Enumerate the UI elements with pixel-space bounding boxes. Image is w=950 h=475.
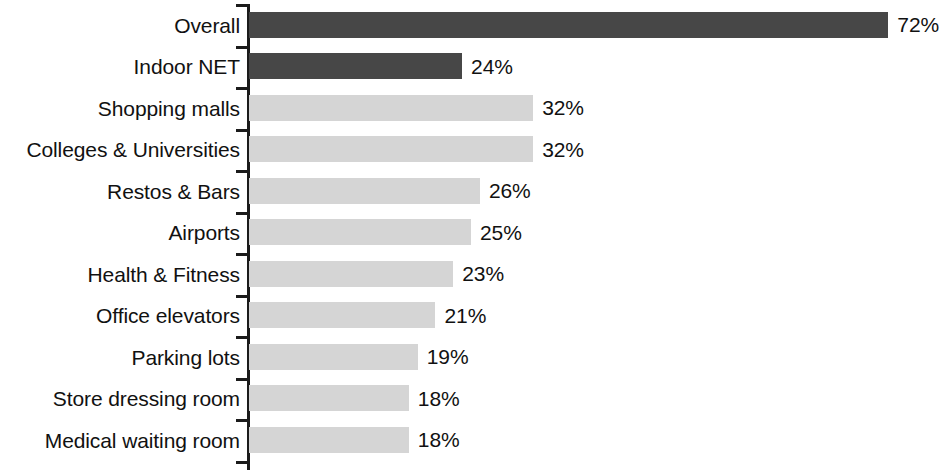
bar [249, 12, 888, 38]
plot-area: Overall72%Indoor NET24%Shopping malls32%… [0, 0, 950, 475]
bar-track: 24% [249, 53, 513, 79]
bar-track: 18% [249, 427, 460, 453]
bar-track: 32% [249, 95, 584, 121]
bar [249, 219, 471, 245]
bar-row: Health & Fitness23% [0, 253, 950, 295]
bar-row: Overall72% [0, 4, 950, 46]
bar [249, 53, 462, 79]
bar-track: 26% [249, 178, 531, 204]
bar [249, 344, 418, 370]
bar-row: Office elevators21% [0, 295, 950, 337]
bar-value-label: 19% [427, 346, 469, 367]
bar-track: 21% [249, 302, 486, 328]
category-label: Office elevators [96, 305, 240, 326]
bar [249, 95, 533, 121]
bar-row: Restos & Bars26% [0, 170, 950, 212]
bar-value-label: 21% [444, 305, 486, 326]
category-label: Colleges & Universities [26, 139, 240, 160]
bar-track: 72% [249, 12, 939, 38]
category-label: Health & Fitness [88, 263, 240, 284]
horizontal-bar-chart: Overall72%Indoor NET24%Shopping malls32%… [0, 0, 950, 475]
category-label: Airports [168, 222, 240, 243]
bar-track: 19% [249, 344, 468, 370]
axis-tick [236, 461, 248, 464]
bar [249, 427, 409, 453]
bar-track: 25% [249, 219, 522, 245]
bar-value-label: 25% [480, 222, 522, 243]
bar [249, 385, 409, 411]
category-label: Medical waiting room [45, 429, 240, 450]
bar-value-label: 32% [542, 139, 584, 160]
bar [249, 302, 435, 328]
bar-value-label: 24% [471, 56, 513, 77]
bar-track: 18% [249, 385, 460, 411]
bar-row: Shopping malls32% [0, 87, 950, 129]
bar [249, 136, 533, 162]
bar-value-label: 18% [418, 388, 460, 409]
bar [249, 261, 453, 287]
bar [249, 178, 480, 204]
category-label: Indoor NET [134, 56, 240, 77]
bar-value-label: 72% [897, 14, 939, 35]
category-label: Restos & Bars [107, 180, 240, 201]
category-label: Parking lots [131, 346, 240, 367]
bar-row: Indoor NET24% [0, 46, 950, 88]
bar-track: 32% [249, 136, 584, 162]
bar-row: Colleges & Universities32% [0, 129, 950, 171]
category-label: Shopping malls [98, 97, 240, 118]
bar-row: Medical waiting room18% [0, 419, 950, 461]
category-label: Store dressing room [53, 388, 240, 409]
bar-row: Store dressing room18% [0, 378, 950, 420]
bar-value-label: 23% [462, 263, 504, 284]
category-label: Overall [174, 14, 240, 35]
bar-value-label: 26% [489, 180, 531, 201]
bar-track: 23% [249, 261, 504, 287]
bar-value-label: 32% [542, 97, 584, 118]
bar-row: Airports25% [0, 212, 950, 254]
bar-value-label: 18% [418, 429, 460, 450]
bar-row: Parking lots19% [0, 336, 950, 378]
